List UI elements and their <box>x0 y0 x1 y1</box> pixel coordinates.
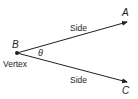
vertex-caption: Vertex <box>3 59 28 69</box>
side-label-lower: Side <box>70 75 87 85</box>
side-label-upper: Side <box>70 23 87 33</box>
vertex-point <box>15 51 19 55</box>
vertex-label: B <box>12 39 19 50</box>
angle-theta-label: θ <box>38 48 43 58</box>
endpoint-label-a: A <box>121 7 129 18</box>
angle-diagram: B Vertex θ Side Side A C <box>0 0 138 99</box>
endpoint-label-c: C <box>122 85 130 96</box>
